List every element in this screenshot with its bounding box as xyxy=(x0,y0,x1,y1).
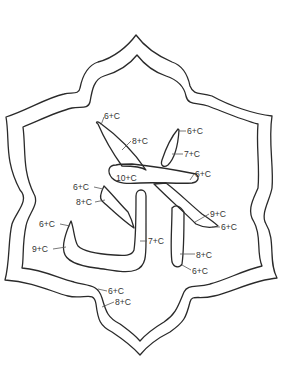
pattern-diagram: 6+C 8+C 6+C 7+C 10+C 6+C 6+C 8+C 9+C 6+C… xyxy=(0,0,282,366)
label-hook-vertical: 7+C xyxy=(148,236,164,246)
label-short-diag-tip: 6+C xyxy=(73,182,89,192)
inner-frame-outline xyxy=(22,55,262,341)
label-right-diag-body: 9+C xyxy=(210,209,226,219)
stroke-diagonal-right xyxy=(154,183,218,227)
stroke-vertical-right xyxy=(171,206,184,267)
label-hook-body: 9+C xyxy=(32,244,48,254)
label-short-diag-body: 8+C xyxy=(76,197,92,207)
label-right-diag-tip: 6+C xyxy=(221,222,237,232)
label-diag-tip: 6+C xyxy=(104,111,120,121)
label-vertical-tip: 6+C xyxy=(192,266,208,276)
label-frame-inner: 6+C xyxy=(108,286,124,296)
label-vertical-body: 8+C xyxy=(196,250,212,260)
label-dot-tip: 6+C xyxy=(187,126,203,136)
outer-frame-outline xyxy=(5,35,277,355)
label-hook-tip: 6+C xyxy=(39,219,55,229)
label-diag-body: 8+C xyxy=(132,136,148,146)
size-labels: 6+C 8+C 6+C 7+C 10+C 6+C 6+C 8+C 9+C 6+C… xyxy=(32,111,237,307)
label-dot-body: 7+C xyxy=(184,149,200,159)
stroke-dot-right xyxy=(161,129,179,166)
label-frame-outer: 8+C xyxy=(115,297,131,307)
label-bar-tip: 6+C xyxy=(195,169,211,179)
stroke-short-diagonal-left xyxy=(101,186,134,228)
label-bar-body: 10+C xyxy=(116,173,137,183)
